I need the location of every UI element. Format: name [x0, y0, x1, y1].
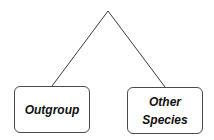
- node-other-species-label-line-1: Other: [142, 93, 187, 111]
- node-other-species: Other Species: [127, 87, 203, 134]
- node-outgroup: Outgroup: [14, 86, 90, 133]
- edge-root-to-other-species: [108, 11, 165, 87]
- node-other-species-label-line-2: Species: [142, 111, 187, 129]
- edge-root-to-outgroup: [52, 11, 108, 86]
- node-outgroup-label: Outgroup: [25, 101, 80, 119]
